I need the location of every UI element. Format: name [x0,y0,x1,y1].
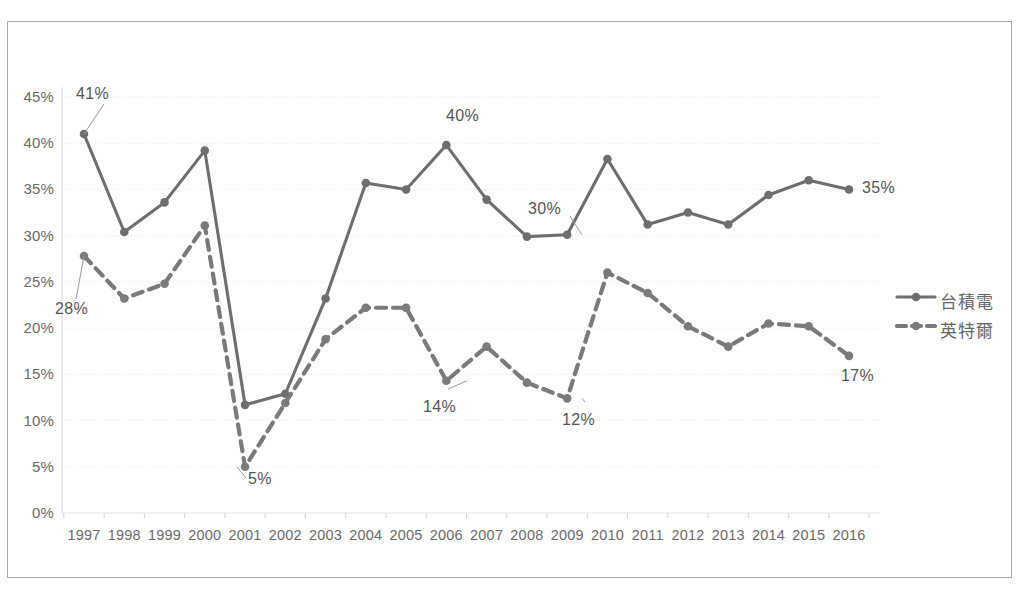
callout-leader-line [582,398,585,402]
data-point[interactable] [643,220,652,229]
x-axis-tick-label: 2015 [787,527,831,543]
data-point[interactable] [684,322,693,331]
callout-value-label: 40% [446,107,479,125]
data-point[interactable] [724,220,733,229]
callout-leader-line [448,381,467,389]
data-point[interactable] [241,401,250,410]
x-axis-tick-label: 1998 [102,527,146,543]
data-point[interactable] [120,294,129,303]
legend-label-tsmc[interactable]: 台積電 [940,288,994,313]
x-axis-tick-label: 2007 [465,527,509,543]
legend-marker-1 [912,322,921,331]
x-axis-tick-label: 2009 [545,527,589,543]
callout-leader-line [76,256,84,299]
data-point[interactable] [442,141,451,150]
data-point[interactable] [321,294,330,303]
data-point[interactable] [482,195,491,204]
x-axis-tick-label: 2011 [626,527,670,543]
data-point[interactable] [804,322,813,331]
x-axis-tick-label: 2016 [827,527,871,543]
data-point[interactable] [845,352,854,361]
legend-label-intel[interactable]: 英特爾 [940,317,994,342]
data-point[interactable] [523,378,532,387]
legend-marks [897,293,935,331]
data-point[interactable] [724,342,733,351]
data-point[interactable] [442,377,451,386]
y-axis-tick-label: 30% [8,227,54,244]
x-axis-tick-label: 2010 [585,527,629,543]
y-axis-tick-label: 15% [8,365,54,382]
data-point[interactable] [160,279,169,288]
data-point[interactable] [120,228,129,237]
data-point[interactable] [764,191,773,200]
data-point[interactable] [804,176,813,185]
callout-value-label: 41% [76,85,109,103]
y-axis-tick-label: 45% [8,88,54,105]
x-axis-tick-label: 2000 [183,527,227,543]
x-axis-tick-label: 2004 [344,527,388,543]
data-point[interactable] [603,155,612,164]
callout-value-label: 17% [841,367,874,385]
callout-value-label: 35% [862,179,895,197]
data-point[interactable] [200,146,209,155]
series-line-1 [84,225,849,466]
y-axis-tick-label: 35% [8,180,54,197]
callout-leader-lines [76,104,585,478]
data-point[interactable] [684,208,693,217]
data-point[interactable] [281,399,290,408]
data-point[interactable] [845,185,854,194]
data-point[interactable] [764,319,773,328]
callout-value-label: 14% [423,398,456,416]
x-axis-tick-label: 1997 [62,527,106,543]
data-point[interactable] [563,230,572,239]
y-axis-tick-label: 20% [8,319,54,336]
data-point[interactable] [200,221,209,230]
data-point[interactable] [603,268,612,277]
data-point[interactable] [362,303,371,312]
axis-lines [62,87,869,518]
data-point[interactable] [643,289,652,298]
y-axis-tick-label: 10% [8,412,54,429]
data-point[interactable] [563,394,572,403]
line-chart-canvas [0,0,1020,598]
callout-value-label: 30% [528,200,561,218]
x-axis-tick-label: 2002 [263,527,307,543]
data-point[interactable] [321,335,330,344]
x-axis-tick-label: 2005 [384,527,428,543]
data-point[interactable] [160,198,169,207]
data-point[interactable] [523,232,532,241]
data-point[interactable] [482,342,491,351]
callout-value-label: 28% [55,300,88,318]
data-point[interactable] [402,303,411,312]
y-axis-tick-label: 5% [8,458,54,475]
data-point[interactable] [362,179,371,188]
data-point[interactable] [402,185,411,194]
series-layer [80,130,854,471]
gridlines [62,97,880,513]
x-axis-tick-label: 2001 [223,527,267,543]
x-axis-tick-label: 2003 [304,527,348,543]
y-axis-tick-label: 25% [8,273,54,290]
y-axis-tick-label: 0% [8,504,54,521]
legend-marker-0 [912,293,921,302]
callout-value-label: 5% [248,470,272,488]
x-axis-tick-label: 2014 [746,527,790,543]
callout-value-label: 12% [562,411,595,429]
x-axis-tick-label: 2012 [666,527,710,543]
x-axis-tick-label: 2006 [424,527,468,543]
x-axis-tick-label: 1999 [143,527,187,543]
callout-leader-line [84,104,104,134]
y-axis-tick-label: 40% [8,134,54,151]
x-axis-tick-label: 2008 [505,527,549,543]
x-axis-tick-label: 2013 [706,527,750,543]
